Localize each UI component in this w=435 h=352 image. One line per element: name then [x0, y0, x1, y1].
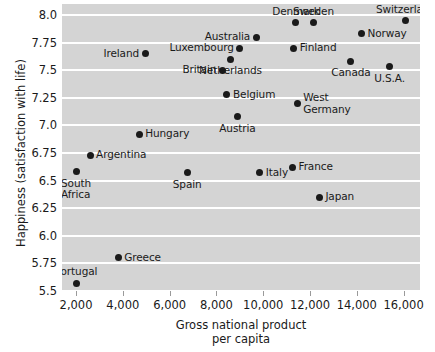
x-tick-label: 4,000	[106, 298, 139, 312]
data-point[interactable]	[115, 254, 122, 261]
data-point-label: U.S.A.	[374, 73, 405, 85]
data-point-label: Norway	[368, 28, 407, 40]
data-point-label: Canada	[331, 67, 370, 79]
x-tick-label: 6,000	[153, 298, 186, 312]
x-tick-label: 10,000	[243, 298, 283, 312]
data-point[interactable]	[236, 45, 243, 52]
data-point-label: Sweden	[293, 5, 334, 17]
x-tick-mark	[357, 291, 358, 296]
data-point-label: France	[298, 162, 332, 174]
data-point[interactable]	[87, 152, 94, 159]
data-point-label: Austria	[219, 123, 255, 135]
gridline	[62, 14, 420, 16]
x-tick-mark	[310, 291, 311, 296]
data-point-label: West Germany	[303, 92, 351, 115]
data-point[interactable]	[290, 45, 297, 52]
data-point[interactable]	[310, 19, 317, 26]
x-tick-mark	[263, 291, 264, 296]
x-tick-mark	[170, 291, 171, 296]
plot-area: SwitzerlandDenmarkSwedenNorwayAustraliaL…	[62, 4, 420, 291]
data-point-label: Greece	[124, 252, 161, 264]
y-tick-label: 6.5	[39, 174, 57, 188]
y-tick-label: 7.0	[39, 118, 57, 132]
x-axis-title-line2: per capita	[62, 332, 420, 346]
y-tick-label: 6.75	[31, 146, 57, 160]
data-point[interactable]	[402, 17, 409, 24]
data-point-label: Japan	[325, 191, 354, 203]
x-axis-title-line1: Gross national product	[62, 318, 420, 332]
y-tick-label: 8.0	[39, 8, 57, 22]
data-point[interactable]	[234, 113, 241, 120]
data-point[interactable]	[292, 19, 299, 26]
y-axis-title: Happiness (satisfaction with life)	[14, 38, 28, 268]
data-point[interactable]	[136, 131, 143, 138]
data-point-label: Finland	[300, 42, 337, 54]
x-tick-label: 2,000	[60, 298, 93, 312]
data-point-label: South Africa	[62, 178, 91, 201]
data-point-label: Ireland	[103, 48, 139, 60]
y-tick-label: 6.0	[39, 229, 57, 243]
x-tick-mark	[76, 291, 77, 296]
data-point[interactable]	[316, 194, 323, 201]
data-point[interactable]	[289, 164, 296, 171]
data-point-label: Spain	[173, 179, 202, 191]
gridline	[62, 262, 420, 264]
data-point[interactable]	[253, 34, 260, 41]
x-tick-mark	[123, 291, 124, 296]
gridline	[62, 180, 420, 182]
data-point-label: Portugal	[62, 266, 97, 278]
x-tick-label: 12,000	[290, 298, 330, 312]
data-point-label: Italy	[266, 167, 288, 179]
y-tick-label: 7.75	[31, 36, 57, 50]
x-tick-mark	[216, 291, 217, 296]
scatter-chart: SwitzerlandDenmarkSwedenNorwayAustraliaL…	[0, 0, 435, 352]
data-point[interactable]	[347, 58, 354, 65]
data-point[interactable]	[73, 280, 80, 287]
y-tick-label: 7.5	[39, 63, 57, 77]
data-point-label: Switzerland	[376, 4, 420, 15]
data-point-label: Belgium	[233, 89, 275, 101]
gridline	[62, 207, 420, 209]
data-point-label: Luxembourg	[169, 42, 233, 54]
data-point-label: Hungary	[145, 129, 189, 141]
data-point[interactable]	[142, 50, 149, 57]
data-point[interactable]	[256, 169, 263, 176]
data-point[interactable]	[358, 30, 365, 37]
data-point[interactable]	[227, 56, 234, 63]
y-tick-label: 6.25	[31, 201, 57, 215]
y-tick-label: 5.75	[31, 256, 57, 270]
x-tick-mark	[404, 291, 405, 296]
y-tick-label: 7.25	[31, 91, 57, 105]
x-tick-label: 14,000	[337, 298, 377, 312]
data-point[interactable]	[294, 100, 301, 107]
x-tick-label: 16,000	[383, 298, 423, 312]
data-point[interactable]	[184, 169, 191, 176]
data-point-label: Argentina	[96, 149, 146, 161]
data-point-label: Britain	[182, 64, 216, 76]
gridline	[62, 235, 420, 237]
data-point[interactable]	[73, 168, 80, 175]
x-tick-label: 8,000	[200, 298, 233, 312]
data-point[interactable]	[219, 67, 226, 74]
x-axis: 2,0004,0006,0008,00010,00012,00014,00016…	[0, 291, 435, 321]
x-axis-title: Gross national product per capita	[62, 318, 420, 346]
